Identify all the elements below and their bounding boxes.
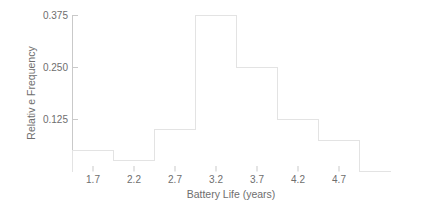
chart-canvas: 0.375 0.250 0.125 Relativ e Frequency 1.… xyxy=(0,0,425,213)
x-tick-label-37: 3.7 xyxy=(250,174,264,185)
x-axis-title: Battery Life (years) xyxy=(187,188,276,200)
y-tick-label-0250: 0.250 xyxy=(43,62,68,73)
y-axis-title: Relativ e Frequency xyxy=(25,46,37,140)
x-tick-label-42: 4.2 xyxy=(291,174,305,185)
histogram-chart: 0.375 0.250 0.125 Relativ e Frequency 1.… xyxy=(0,0,425,213)
x-tick-label-17: 1.7 xyxy=(86,174,100,185)
y-tick-label-0125: 0.125 xyxy=(43,114,68,125)
x-tick-label-27: 2.7 xyxy=(168,174,182,185)
x-tick-label-47: 4.7 xyxy=(332,174,346,185)
histogram-outline xyxy=(73,16,391,172)
x-tick-label-32: 3.2 xyxy=(209,174,223,185)
x-tick-label-22: 2.2 xyxy=(127,174,141,185)
y-tick-label-0375: 0.375 xyxy=(43,10,68,21)
